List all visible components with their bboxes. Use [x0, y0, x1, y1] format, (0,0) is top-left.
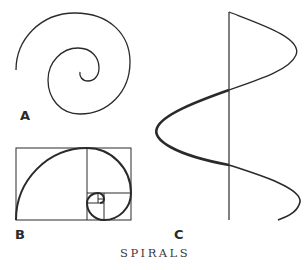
label-a: A: [20, 108, 30, 123]
label-c: C: [174, 227, 184, 242]
label-b: B: [15, 227, 25, 242]
golden-rectangle-b: [16, 148, 131, 220]
golden-spiral-b: [16, 148, 131, 220]
spirals-figure: [0, 0, 307, 270]
helix-c: [156, 12, 300, 220]
figure-title: SPIRALS: [120, 246, 190, 260]
spiral-a: [16, 13, 130, 114]
